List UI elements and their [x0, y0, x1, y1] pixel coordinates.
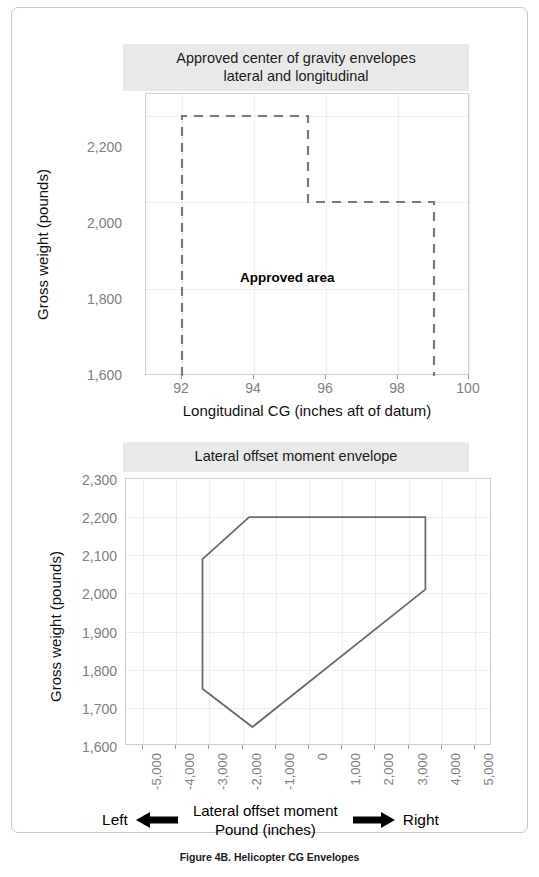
y-tick-label: 1,600 [55, 739, 117, 755]
x-axis-title-lateral: Lateral offset moment Pound (inches) [193, 801, 338, 839]
x-tick-mark [474, 745, 475, 749]
chart-title-longitudinal: Approved center of gravity envelopes lat… [123, 44, 469, 91]
right-direction-label: Right [403, 811, 439, 829]
chart-title-line-2: lateral and longitudinal [123, 67, 469, 85]
x-axis-title-line-1: Lateral offset moment [193, 802, 338, 819]
x-tick-mark [253, 375, 254, 379]
x-tick-mark [308, 745, 309, 749]
x-tick-mark [441, 745, 442, 749]
y-tick-label: 2,300 [55, 472, 117, 488]
y-tick-label: 2,200 [60, 139, 122, 155]
longitudinal-envelope-plot [146, 94, 470, 376]
left-arrow-icon [136, 811, 178, 829]
x-tick-mark [468, 375, 469, 379]
x-tick-label: 92 [151, 380, 211, 396]
x-tick-mark [397, 375, 398, 379]
lateral-direction-row: Left Lateral offset moment Pound (inches… [12, 801, 529, 839]
x-tick-mark [341, 745, 342, 749]
x-axis-title-longitudinal: Longitudinal CG (inches aft of datum) [117, 402, 497, 419]
y-tick-label: 1,600 [60, 367, 122, 383]
x-tick-mark [275, 745, 276, 749]
lateral-envelope-plot [126, 479, 492, 746]
y-tick-label: 1,800 [55, 663, 117, 679]
figure-caption: Figure 4B. Helicopter CG Envelopes [0, 851, 539, 863]
right-arrow-icon [353, 811, 395, 829]
y-axis-title-longitudinal: Gross weight (pounds) [34, 145, 51, 345]
x-tick-label: 96 [295, 380, 355, 396]
x-tick-label: 94 [223, 380, 283, 396]
x-tick-mark [181, 375, 182, 379]
chart-title-text: Lateral offset moment envelope [123, 447, 469, 466]
y-tick-label: 2,000 [60, 215, 122, 231]
x-tick-mark [208, 745, 209, 749]
x-axis-title-line-2: Pound (inches) [215, 821, 316, 838]
plot-area-lateral [125, 478, 491, 745]
y-tick-label: 1,800 [60, 291, 122, 307]
y-tick-label: 1,700 [55, 701, 117, 717]
chart-title-lateral: Lateral offset moment envelope [123, 442, 469, 472]
approved-envelope-dashed [182, 116, 434, 376]
x-tick-mark [374, 745, 375, 749]
plot-area-longitudinal [145, 93, 469, 375]
lateral-offset-envelope-polygon [203, 517, 426, 727]
y-tick-label: 1,900 [55, 625, 117, 641]
left-direction-label: Left [102, 811, 128, 829]
figure-card: Approved center of gravity envelopes lat… [11, 7, 528, 833]
x-tick-mark [325, 375, 326, 379]
x-tick-mark [175, 745, 176, 749]
y-tick-label: 2,100 [55, 548, 117, 564]
y-tick-label: 2,000 [55, 586, 117, 602]
x-tick-mark [142, 745, 143, 749]
chart-title-line-1: Approved center of gravity envelopes [123, 49, 469, 67]
x-tick-label: 98 [367, 380, 427, 396]
x-tick-label: 100 [438, 380, 498, 396]
x-tick-mark [242, 745, 243, 749]
x-tick-mark [408, 745, 409, 749]
y-tick-label: 2,200 [55, 510, 117, 526]
approved-area-label: Approved area [240, 270, 335, 285]
